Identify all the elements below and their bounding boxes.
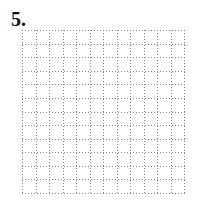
problem-number: 5. [11, 9, 26, 29]
grid-lines [22, 30, 185, 194]
dot-grid [22, 30, 185, 194]
